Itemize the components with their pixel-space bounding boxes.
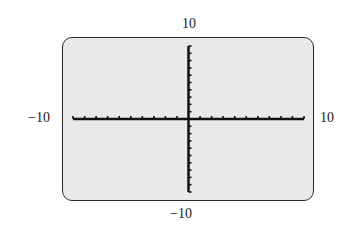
ymax-label: 10 xyxy=(182,17,196,31)
xmax-label: 10 xyxy=(320,111,334,125)
xmin-label: −10 xyxy=(28,111,50,125)
ymin-label: −10 xyxy=(170,207,192,221)
coordinate-axes xyxy=(0,0,346,233)
